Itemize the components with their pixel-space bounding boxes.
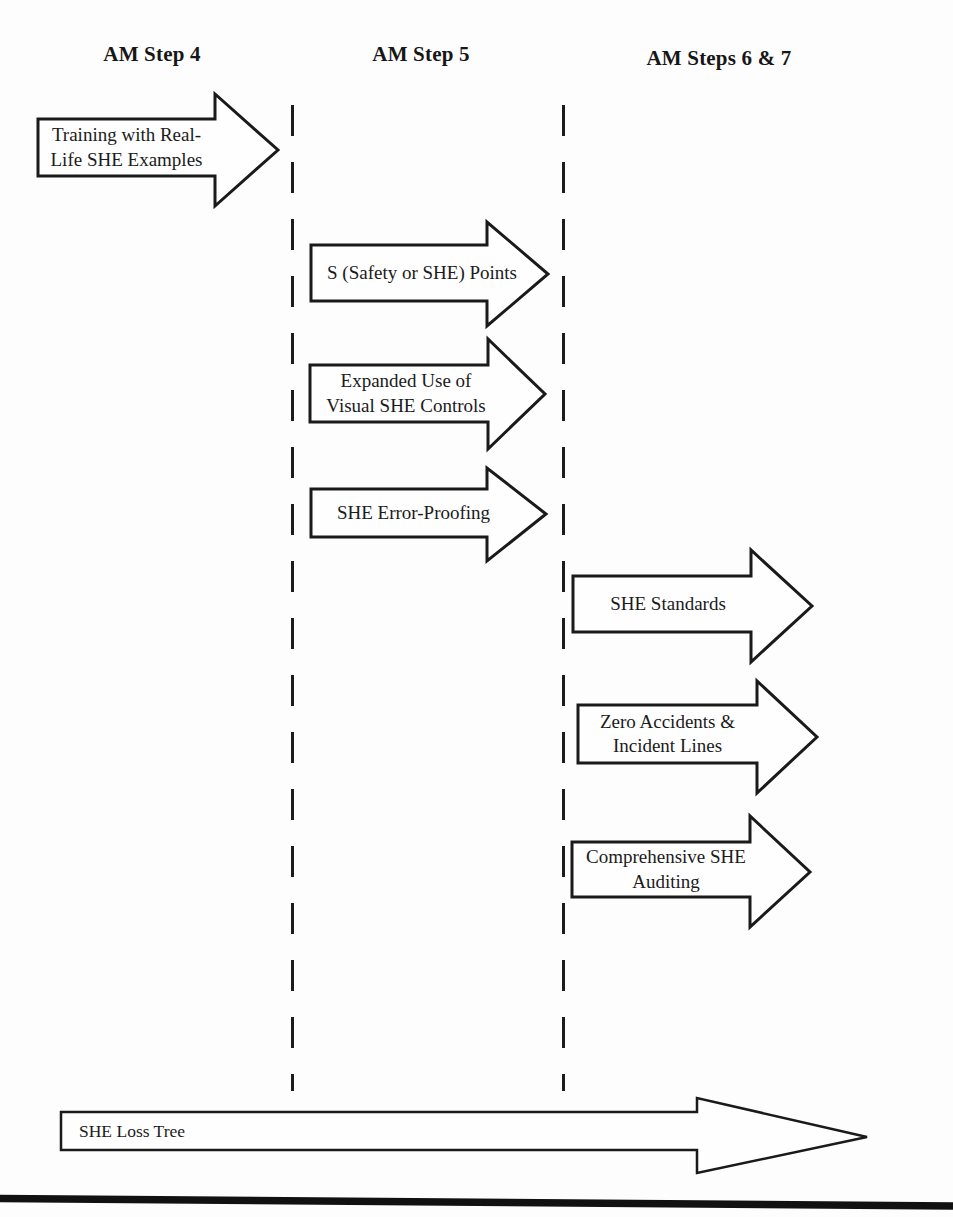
arrow-she-error-proofing: SHE Error-Proofing [311,468,546,561]
arrow-label: SHE Error-Proofing [311,489,516,537]
arrow-s-safety-or-she-points: S (Safety or SHE) Points [311,222,548,326]
arrow-label: SHE Standards [573,576,763,632]
dashed-divider-step5-steps67 [562,105,565,1091]
arrow-comprehensive-she-auditing: Comprehensive SHE Auditing [572,816,810,927]
column-header-am-step-5: AM Step 5 [321,42,521,67]
dashed-divider-step4-step5 [291,105,294,1091]
arrow-expanded-use-of-visual-she-controls: Expanded Use of Visual SHE Controls [310,339,545,449]
arrow-she-standards: SHE Standards [573,550,812,662]
arrow-label: Comprehensive SHE Auditing [572,842,760,897]
bottom-rule [0,1190,953,1217]
arrow-label: Training with Real- Life SHE Examples [38,119,215,176]
arrow-label: S (Safety or SHE) Points [313,245,531,301]
column-header-am-steps-6-7: AM Steps 6 & 7 [609,46,829,71]
arrow-label: SHE Loss Tree [79,1112,479,1150]
she-am-steps-diagram: AM Step 4 AM Step 5 AM Steps 6 & 7 Train… [0,0,953,1217]
arrow-label: Expanded Use of Visual SHE Controls [310,365,502,422]
arrow-training-with-real-life-she-examples: Training with Real- Life SHE Examples [38,94,278,206]
arrow-label: Zero Accidents & Incident Lines [578,705,757,763]
column-header-am-step-4: AM Step 4 [52,42,252,67]
arrow-she-loss-tree: SHE Loss Tree [61,1098,867,1173]
arrow-zero-accidents-incident-lines: Zero Accidents & Incident Lines [578,681,817,793]
